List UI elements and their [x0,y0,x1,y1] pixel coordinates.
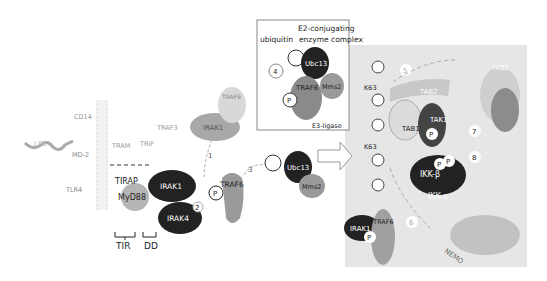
tram-label: TRAM [111,142,130,150]
step-6-label: 6 [409,219,414,227]
tlr4-label: TLR4 [65,186,82,194]
cell-membrane [96,100,108,210]
trif-label: TRIF [139,140,154,148]
tir-label: TIR [115,241,130,251]
tirap-label: TIRAP [114,177,138,186]
svg-text:TRAF6: TRAF6 [295,84,319,92]
ubc13-label: Ubc13 [287,164,309,172]
irak4-label: IRAK4 [167,214,189,223]
svg-text:TRAF6: TRAF6 [221,93,241,100]
traf3-label: TRAF3 [156,124,178,132]
svg-text:TRAF6: TRAF6 [372,218,394,226]
lps-molecule [25,141,73,150]
svg-text:P: P [437,161,441,169]
step-8-label: 8 [472,154,476,162]
traf6-label: TRAF6 [219,180,244,189]
ubiquitin-icon [372,61,384,73]
tak1-label: TAK1 [429,116,448,124]
myd88-label: MyD88 [118,193,146,202]
e3-ligase-label: E3-ligase [312,122,342,130]
tir-bracket [115,232,135,240]
tab1-label: TAB1 [401,125,420,133]
dd-label: DD [144,241,158,251]
dd-bracket [143,232,156,237]
step-2-label: 2 [195,204,199,212]
svg-text:Mms2: Mms2 [322,83,341,91]
inset-ubiquitin-label: ubiquitin [260,35,293,44]
svg-text:P: P [213,190,217,198]
step-7-label: 7 [472,128,476,136]
step-4-label: 4 [273,68,278,76]
tab2-label: TAB2 [419,88,438,96]
ikk-alpha-label: IKK-α [428,192,448,201]
nemo-shape [450,215,520,255]
md2-label: MD-2 [72,151,89,159]
svg-text:P: P [287,97,291,105]
svg-text:P: P [367,234,371,242]
ubiquitin-icon [372,119,384,131]
k63-label-2: K63 [364,143,377,151]
step-1-label: 1 [208,152,212,160]
svg-text:IRAK1: IRAK1 [203,124,223,132]
cd14-label: CD14 [74,113,92,121]
ubiquitin-icon [372,94,384,106]
e2-inset: E2-conjugating enzyme complex ubiquitin … [257,20,363,130]
step-3-label: 3 [248,166,252,174]
tab1-shape [389,100,421,140]
inset-title-line1: E2-conjugating [298,24,355,33]
ubiquitin-icon [372,154,384,166]
svg-text:P: P [446,158,450,166]
tak1-faded-shape [491,88,519,132]
irak1-label: IRAK1 [160,182,182,191]
tak1-shape [418,103,446,147]
lps-label: LPS [34,140,47,148]
tlr4-signaling-diagram: LPS MD-2 CD14 TLR4 TRAM TRIF TRAF3 TIRAP… [0,0,547,281]
svg-text:Ubc13: Ubc13 [305,60,327,68]
mms2-label: Mms2 [302,183,321,191]
ikk-beta-label: IKK-β [420,170,440,179]
k63-label-1: K63 [364,84,377,92]
svg-text:TAB2: TAB2 [491,64,509,72]
inset-title-line2: enzyme complex [299,35,363,44]
ubiquitin-icon [265,155,281,171]
svg-text:P: P [429,131,433,139]
ubiquitin-icon [372,179,384,191]
